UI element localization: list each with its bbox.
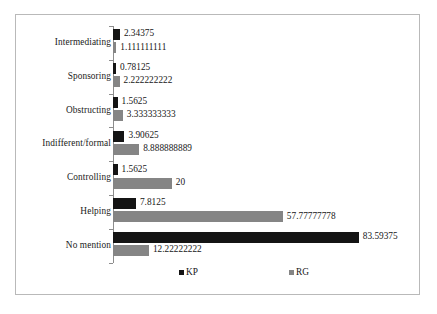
legend-label: KP — [186, 267, 198, 277]
bar-value-label: 7.8125 — [140, 197, 166, 208]
bars-wrapper: 1.562520 — [113, 161, 421, 193]
bar-group-row: Sponsoring0.781252.222222222 — [16, 60, 421, 92]
bar-group-row: Intermediating2.343751.111111111 — [16, 26, 421, 58]
bar-group-row: Controlling1.562520 — [16, 161, 421, 193]
bar-rg[interactable] — [113, 178, 172, 189]
category-label: Helping — [80, 206, 111, 216]
legend-swatch-icon — [289, 270, 294, 275]
category-label: Indifferent/formal — [42, 138, 111, 148]
category-label: Controlling — [67, 172, 111, 182]
bars-wrapper: 3.906258.888888889 — [113, 127, 421, 159]
bar-value-label: 57.77777778 — [287, 211, 336, 222]
bar-rg[interactable] — [113, 76, 120, 87]
bar-value-label: 83.59375 — [363, 231, 398, 242]
bar-value-label: 1.5625 — [122, 96, 148, 107]
bar-kp[interactable] — [113, 29, 120, 40]
bar-group-row: Helping7.812557.77777778 — [16, 195, 421, 227]
axis-tick — [109, 94, 113, 95]
legend-swatch-icon — [179, 270, 184, 275]
axis-tick — [109, 161, 113, 162]
category-label: No mention — [66, 240, 111, 250]
legend-label: RG — [296, 267, 309, 277]
bar-value-label: 1.5625 — [122, 164, 148, 175]
axis-tick — [109, 195, 113, 196]
bars-wrapper: 1.56253.333333333 — [113, 94, 421, 126]
chart-legend: KPRG — [16, 267, 421, 287]
chart-frame: Intermediating2.343751.111111111Sponsori… — [15, 14, 420, 295]
category-label: Sponsoring — [68, 71, 111, 81]
bar-group-row: Obstructing1.56253.333333333 — [16, 94, 421, 126]
axis-tick — [109, 60, 113, 61]
axis-tick — [109, 263, 113, 264]
legend-item-rg[interactable]: RG — [289, 267, 309, 277]
bar-value-label: 12.22222222 — [153, 244, 202, 255]
bars-wrapper: 0.781252.222222222 — [113, 60, 421, 92]
bar-value-label: 2.34375 — [124, 28, 154, 39]
bar-rg[interactable] — [113, 110, 123, 121]
bars-wrapper: 83.5937512.22222222 — [113, 229, 421, 261]
bars-wrapper: 7.812557.77777778 — [113, 195, 421, 227]
axis-tick — [109, 26, 113, 27]
bar-rg[interactable] — [113, 144, 139, 155]
bar-value-label: 2.222222222 — [124, 75, 173, 86]
legend-item-kp[interactable]: KP — [179, 267, 198, 277]
bar-rg[interactable] — [113, 211, 283, 222]
bar-kp[interactable] — [113, 131, 124, 142]
bar-kp[interactable] — [113, 198, 136, 209]
bar-value-label: 3.90625 — [128, 130, 158, 141]
bar-value-label: 1.111111111 — [120, 42, 166, 53]
bar-kp[interactable] — [113, 232, 359, 243]
bar-value-label: 20 — [176, 177, 185, 188]
bar-rg[interactable] — [113, 245, 149, 256]
bar-kp[interactable] — [113, 97, 118, 108]
bar-group-row: Indifferent/formal3.906258.888888889 — [16, 127, 421, 159]
bars-wrapper: 2.343751.111111111 — [113, 26, 421, 58]
bar-value-label: 3.333333333 — [127, 109, 176, 120]
bar-rg[interactable] — [113, 42, 116, 53]
bar-kp[interactable] — [113, 63, 116, 74]
bar-group-row: No mention83.5937512.22222222 — [16, 229, 421, 261]
category-label: Intermediating — [55, 37, 111, 47]
chart-plot-area: Intermediating2.343751.111111111Sponsori… — [16, 15, 421, 296]
bar-value-label: 8.888888889 — [143, 143, 192, 154]
axis-tick — [109, 127, 113, 128]
axis-tick — [109, 229, 113, 230]
bar-kp[interactable] — [113, 164, 118, 175]
category-label: Obstructing — [66, 105, 111, 115]
bar-value-label: 0.78125 — [120, 62, 150, 73]
